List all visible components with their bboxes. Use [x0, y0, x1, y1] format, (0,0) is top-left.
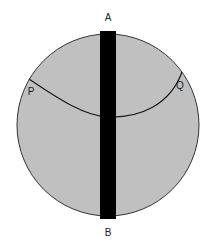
vertical-bar [100, 31, 116, 219]
label-b: B [105, 227, 112, 238]
label-p: P [28, 86, 35, 97]
label-q: Q [176, 80, 184, 91]
circle-diagram: A B P Q [0, 0, 209, 241]
label-a: A [105, 12, 112, 23]
